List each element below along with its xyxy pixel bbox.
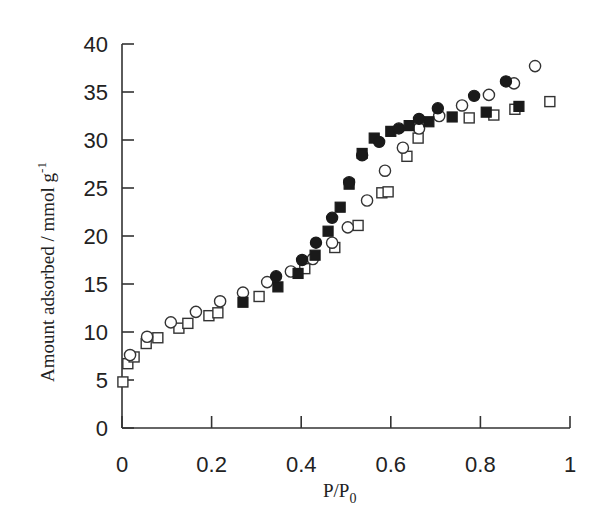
data-point-square xyxy=(404,121,414,131)
y-tick-label: 30 xyxy=(84,128,108,153)
data-point-square xyxy=(447,112,457,122)
data-point-square xyxy=(464,113,474,123)
data-point-circle xyxy=(165,317,176,328)
x-axis-ticks: 00.20.40.60.81 xyxy=(116,416,576,477)
y-tick-label: 25 xyxy=(84,176,108,201)
x-tick-label: 0.8 xyxy=(465,452,496,477)
series-open-circles xyxy=(124,60,540,360)
data-point-circle xyxy=(379,165,390,176)
data-point-square xyxy=(238,297,248,307)
x-tick-label: 0 xyxy=(116,452,128,477)
data-point-circle xyxy=(296,254,307,265)
data-point-square xyxy=(424,117,434,127)
data-point-circle xyxy=(271,271,282,282)
y-tick-label: 5 xyxy=(96,368,108,393)
series-filled-circles xyxy=(271,76,512,282)
data-point-circle xyxy=(500,76,511,87)
data-point-circle xyxy=(342,222,353,233)
data-point-circle xyxy=(357,150,368,161)
data-point-circle xyxy=(190,306,201,317)
x-tick-label: 0.4 xyxy=(286,452,317,477)
y-tick-label: 0 xyxy=(96,416,108,441)
y-tick-label: 10 xyxy=(84,320,108,345)
data-point-circle xyxy=(310,237,321,248)
data-point-square xyxy=(183,318,193,328)
data-point-square xyxy=(335,202,345,212)
data-point-circle xyxy=(374,136,385,147)
data-point-square xyxy=(323,226,333,236)
data-point-square xyxy=(273,282,283,292)
data-point-circle xyxy=(397,142,408,153)
y-tick-label: 40 xyxy=(84,32,108,57)
data-point-square xyxy=(118,377,128,387)
data-point-square xyxy=(545,97,555,107)
y-tick-label: 35 xyxy=(84,80,108,105)
x-tick-label: 1 xyxy=(564,452,576,477)
data-point-square xyxy=(254,291,264,301)
data-point-circle xyxy=(413,113,424,124)
data-point-circle xyxy=(393,123,404,134)
data-points xyxy=(118,60,555,386)
data-point-circle xyxy=(432,103,443,114)
data-point-square xyxy=(153,333,163,343)
x-tick-label: 0.2 xyxy=(196,452,227,477)
data-point-square xyxy=(310,250,320,260)
x-axis-title-main: P/P xyxy=(323,480,349,501)
data-point-circle xyxy=(237,287,248,298)
y-tick-label: 15 xyxy=(84,272,108,297)
y-axis-title-main: Amount adsorbed / mmol g xyxy=(37,172,58,381)
data-point-square xyxy=(213,308,223,318)
data-point-circle xyxy=(456,100,467,111)
data-point-square xyxy=(353,220,363,230)
data-point-circle xyxy=(529,60,540,71)
data-point-circle xyxy=(361,195,372,206)
x-axis-title: P/P0 xyxy=(323,480,356,506)
data-point-circle xyxy=(215,296,226,307)
x-axis-title-subscript: 0 xyxy=(349,491,356,506)
x-axis: 00.20.40.60.81 xyxy=(116,416,576,477)
data-point-circle xyxy=(469,90,480,101)
data-point-circle xyxy=(327,237,338,248)
data-point-square xyxy=(514,101,524,111)
data-point-square xyxy=(383,187,393,197)
x-tick-label: 0.6 xyxy=(376,452,407,477)
adsorption-isotherm-chart: 0510152025303540 00.20.40.60.81 P/P0 Amo… xyxy=(0,0,603,527)
y-axis-title-superscript: -1 xyxy=(34,162,49,173)
data-point-square xyxy=(293,268,303,278)
data-point-circle xyxy=(344,177,355,188)
data-point-circle xyxy=(483,89,494,100)
data-point-circle xyxy=(141,331,152,342)
data-point-circle xyxy=(124,349,135,360)
y-tick-label: 20 xyxy=(84,224,108,249)
data-point-square xyxy=(481,107,491,117)
y-axis-title: Amount adsorbed / mmol g-1 xyxy=(34,162,58,382)
data-point-circle xyxy=(327,212,338,223)
